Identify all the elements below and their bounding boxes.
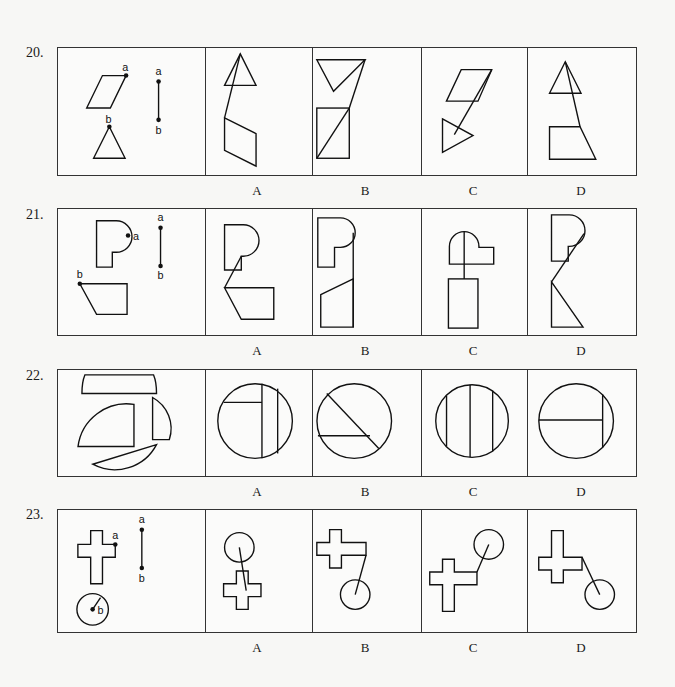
svg-text:a: a [158, 211, 165, 223]
question-20-given-figure: a b a b [58, 48, 205, 175]
question-number-23: 23. [26, 507, 44, 523]
option-label-c: C [469, 343, 478, 359]
svg-text:a: a [139, 513, 146, 525]
svg-text:b: b [77, 268, 83, 280]
question-20-option-c[interactable] [421, 48, 528, 175]
question-23-option-a[interactable] [205, 510, 313, 632]
question-20-option-d[interactable] [527, 48, 639, 175]
question-22-option-a[interactable] [205, 370, 313, 476]
question-21-option-a[interactable] [205, 209, 313, 335]
question-21-option-b[interactable] [312, 209, 422, 335]
option-label-d: D [576, 484, 585, 500]
question-20-given-panel: a b a b [58, 48, 205, 175]
option-label-b: B [361, 484, 370, 500]
svg-text:b: b [98, 604, 104, 616]
option-label-a: A [252, 183, 261, 199]
question-23-given-panel: a a b b [58, 510, 205, 632]
option-label-d: D [576, 183, 585, 199]
question-21-given-figure: a a b b [58, 209, 205, 335]
question-23-option-c[interactable] [421, 510, 528, 632]
option-label-b: B [361, 640, 370, 656]
option-label-b: B [361, 343, 370, 359]
question-20-figure-row: a b a b [57, 47, 637, 176]
question-22-figure-row [57, 369, 637, 477]
option-label-c: C [469, 640, 478, 656]
question-22-option-b[interactable] [312, 370, 422, 476]
question-number-20: 20. [26, 45, 44, 61]
point-label-b: b [105, 113, 111, 125]
question-20-option-b[interactable] [312, 48, 422, 175]
question-21-option-c[interactable] [421, 209, 528, 335]
question-23-given-figure: a a b b [58, 510, 205, 632]
option-label-d: D [576, 343, 585, 359]
question-23-figure-row: a a b b [57, 509, 637, 633]
question-21-option-d[interactable] [527, 209, 639, 335]
option-label-a: A [252, 484, 261, 500]
question-22-option-d[interactable] [527, 370, 639, 476]
point-label-a: a [122, 61, 129, 73]
question-21-figure-row: a a b b [57, 208, 637, 336]
question-22-given-figure [58, 370, 205, 476]
question-number-22: 22. [26, 368, 44, 384]
question-20-option-a[interactable] [205, 48, 313, 175]
question-23-option-d[interactable] [527, 510, 639, 632]
question-number-21: 21. [26, 207, 44, 223]
svg-text:a: a [133, 230, 140, 242]
option-label-c: C [469, 484, 478, 500]
option-label-a: A [252, 640, 261, 656]
svg-text:a: a [112, 529, 119, 541]
option-label-d: D [576, 640, 585, 656]
option-label-b: B [361, 183, 370, 199]
question-21-given-panel: a a b b [58, 209, 205, 335]
question-23-option-b[interactable] [312, 510, 422, 632]
svg-text:a: a [156, 65, 163, 77]
question-22-given-panel [58, 370, 205, 476]
svg-text:b: b [156, 124, 162, 136]
svg-text:b: b [158, 269, 164, 281]
question-22-option-c[interactable] [421, 370, 528, 476]
option-label-c: C [469, 183, 478, 199]
svg-text:b: b [139, 572, 145, 584]
option-label-a: A [252, 343, 261, 359]
